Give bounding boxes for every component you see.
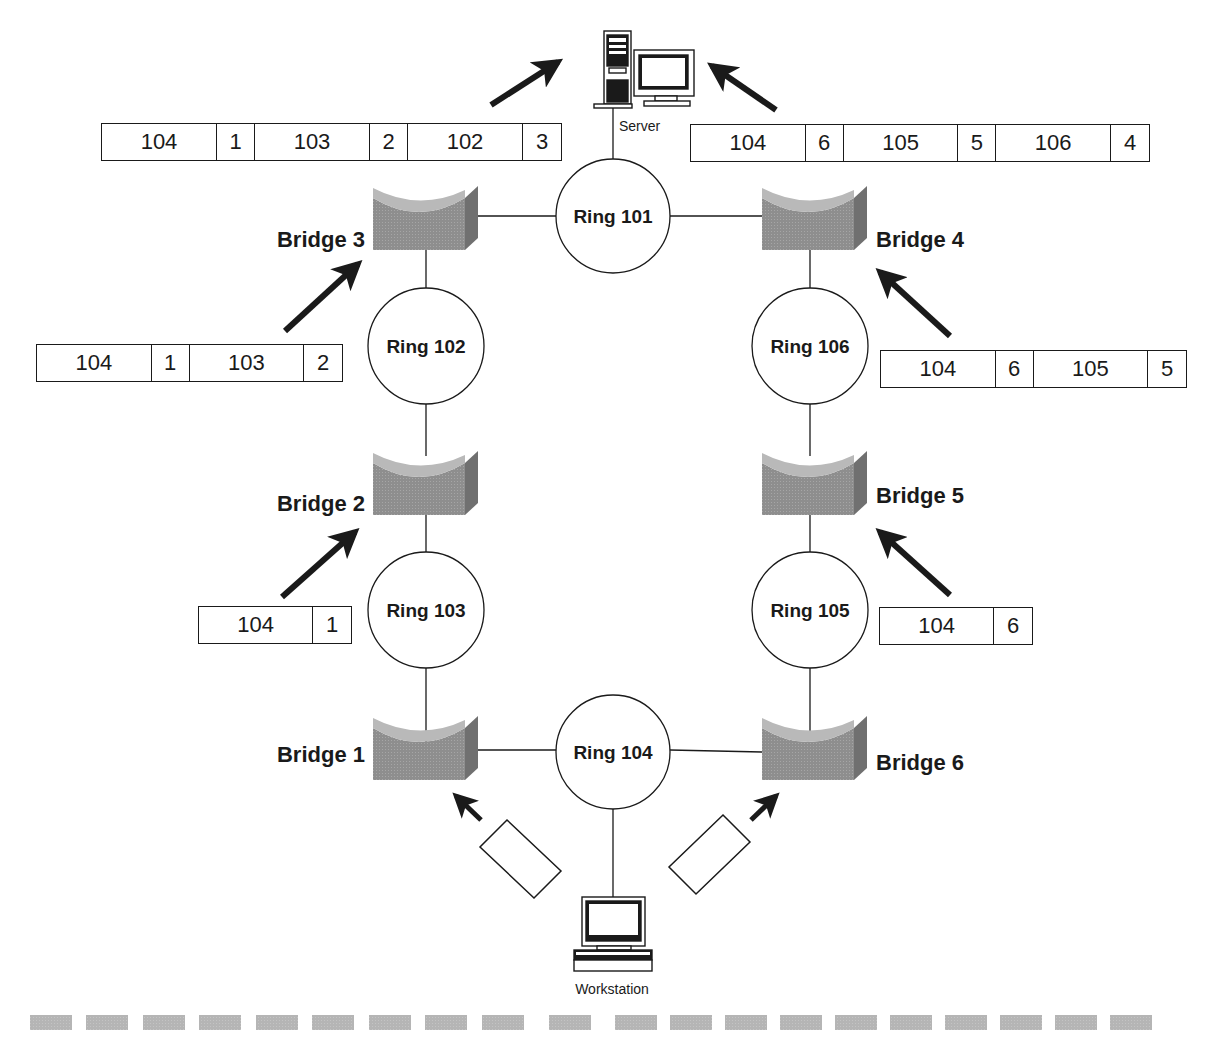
bridge-5-label: Bridge 5: [876, 483, 964, 508]
route-frame-right-mid: 104 6 105 5: [880, 350, 1187, 388]
frame-cell-bridge: 1: [217, 124, 255, 160]
route-frame-left-low: 104 1: [198, 606, 352, 644]
frame-cell-ring: 103: [255, 124, 370, 160]
arrow-icon: [880, 532, 950, 595]
route-frame-left-top: 104 1 103 2 102 3: [101, 123, 562, 161]
server-icon: [594, 31, 694, 108]
bridge-4-label: Bridge 4: [876, 227, 965, 252]
arrow-icon: [880, 272, 950, 336]
frame-cell-ring: 105: [844, 125, 959, 161]
ring-101-label: Ring 101: [573, 206, 653, 227]
frame-cell-bridge: 1: [152, 345, 190, 381]
bridge-3-icon: [373, 186, 478, 250]
frame-cell-bridge: 3: [523, 124, 561, 160]
frame-cell-bridge: 4: [1111, 125, 1149, 161]
bridge-5-icon: [762, 451, 867, 515]
ring-106-label: Ring 106: [770, 336, 849, 357]
frame-cell-bridge: 6: [996, 351, 1034, 387]
ring-103-label: Ring 103: [386, 600, 465, 621]
bridge-1-label: Bridge 1: [277, 742, 365, 767]
bridge-4-icon: [762, 186, 867, 250]
frame-cell-ring: 104: [199, 607, 313, 643]
frame-cell-bridge: 6: [994, 608, 1032, 644]
ring-102: Ring 102: [368, 288, 484, 404]
route-frame-right-top: 104 6 105 5 106 4: [690, 124, 1150, 162]
empty-frame-right: [669, 815, 750, 894]
frame-cell-ring: 105: [1034, 351, 1149, 387]
arrow-icon: [285, 264, 358, 331]
frame-cell-ring: 103: [190, 345, 305, 381]
frame-cell-bridge: 6: [806, 125, 844, 161]
frame-cell-bridge: 5: [1148, 351, 1186, 387]
route-frame-right-low: 104 6: [879, 607, 1033, 645]
ring-104: Ring 104: [556, 695, 670, 809]
ring-102-label: Ring 102: [386, 336, 465, 357]
empty-frame-left: [480, 820, 561, 898]
frame-cell-ring: 104: [37, 345, 152, 381]
frame-cell-ring: 104: [691, 125, 806, 161]
frame-cell-ring: 106: [996, 125, 1111, 161]
ring-104-label: Ring 104: [573, 742, 653, 763]
arrow-icon: [712, 66, 776, 110]
frame-cell-bridge: 5: [958, 125, 996, 161]
bridge-6-icon: [762, 716, 867, 780]
workstation-icon: [574, 897, 652, 971]
ring-105-label: Ring 105: [770, 600, 850, 621]
arrow-icon: [456, 796, 481, 820]
bridge-2-label: Bridge 2: [277, 491, 365, 516]
ring-103: Ring 103: [368, 552, 484, 668]
frame-cell-ring: 102: [408, 124, 523, 160]
ring-106: Ring 106: [752, 288, 868, 404]
arrow-icon: [751, 796, 776, 820]
arrow-icon: [491, 62, 558, 105]
bridge-6-label: Bridge 6: [876, 750, 964, 775]
frame-cell-ring: 104: [102, 124, 217, 160]
ring-105: Ring 105: [752, 552, 868, 668]
arrow-icon: [282, 532, 355, 597]
server-label: Server: [619, 118, 661, 134]
frame-cell-ring: 104: [880, 608, 994, 644]
workstation-label: Workstation: [575, 981, 649, 997]
bridge-3-label: Bridge 3: [277, 227, 365, 252]
ring-101: Ring 101: [556, 159, 670, 273]
route-frame-left-mid: 104 1 103 2: [36, 344, 343, 382]
frame-cell-bridge: 2: [370, 124, 408, 160]
bridge-2-icon: [373, 451, 478, 515]
frame-cell-bridge: 2: [304, 345, 342, 381]
frame-cell-ring: 104: [881, 351, 996, 387]
frame-cell-bridge: 1: [313, 607, 351, 643]
footer-dash-band: [30, 1015, 1152, 1030]
